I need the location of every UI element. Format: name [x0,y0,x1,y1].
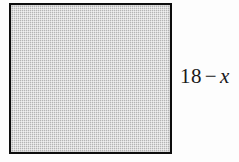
variable-x: x [220,64,230,88]
minus-operator: − [202,64,220,88]
figure-canvas: 18−x [0,0,239,162]
side-length-label: 18−x [180,63,230,89]
side-length-number: 18 [180,64,202,88]
shaded-square-shape [9,3,172,154]
